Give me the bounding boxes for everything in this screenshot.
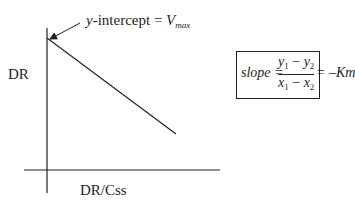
y-axis-label: DR [8,66,29,83]
x-axis-label: DR/Css [80,182,127,199]
fraction-denominator: x1 − x2 [278,75,314,95]
annotation-sub: max [175,20,190,30]
slope-fraction: y1 − y2 x1 − x2 [278,54,314,95]
slope-rhs: = –Km [316,65,355,81]
annotation-y: y [86,12,93,28]
intercept-arrow [50,23,80,39]
regression-line [47,38,176,134]
annotation-text: -intercept = [93,12,166,28]
y-intercept-annotation: y-intercept = Vmax [86,12,190,30]
annotation-var: V [166,12,175,28]
fraction-numerator: y1 − y2 [278,54,314,74]
